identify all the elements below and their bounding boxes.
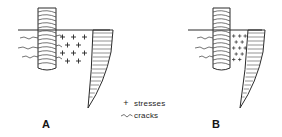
- legend-label-stresses: stresses: [134, 99, 165, 108]
- legend-entry-stresses: + stresses: [123, 98, 165, 108]
- panel-label-b: B: [212, 118, 220, 130]
- diagram-canvas: A: [0, 0, 282, 137]
- cracks-b: [195, 37, 213, 58]
- legend-label-cracks: cracks: [134, 111, 158, 120]
- stress-wedge-a: [88, 30, 113, 108]
- bolt-threads-b: [213, 11, 230, 65]
- bolt-threads-a: [38, 11, 56, 65]
- legend-entry-cracks: cracks: [121, 111, 158, 120]
- bolt-a: [38, 8, 56, 70]
- stress-marks-a: [60, 35, 87, 64]
- panel-a: A: [18, 8, 113, 130]
- cracks-a: [18, 37, 38, 58]
- wavy-crack-icon: [121, 115, 133, 118]
- panel-b: B: [188, 8, 265, 130]
- stress-marks-b: [232, 34, 247, 61]
- plus-icon: +: [123, 98, 128, 108]
- technical-diagram-figure: A: [0, 0, 282, 137]
- symbol-legend: + stresses cracks: [121, 98, 165, 120]
- cracks-a-right: [56, 35, 63, 59]
- bolt-b: [213, 8, 230, 70]
- panel-label-a: A: [42, 118, 50, 130]
